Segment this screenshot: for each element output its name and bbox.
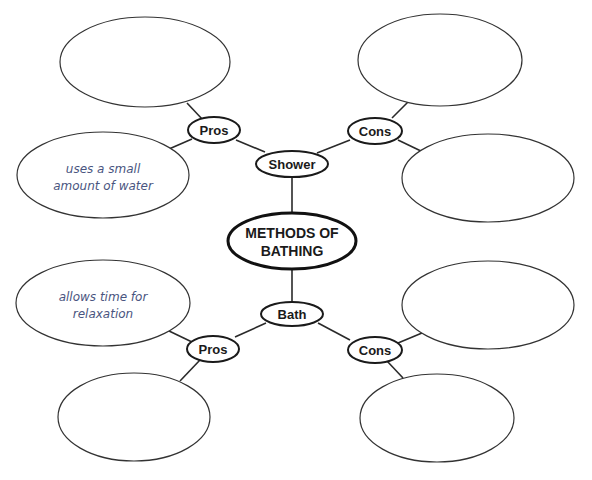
shower-cons-label: Cons	[359, 124, 392, 139]
central-title-line-1: METHODS OF	[245, 225, 339, 241]
shower-pros-note-1-line-2: amount of water	[53, 179, 154, 193]
bath-cons-label: Cons	[359, 343, 392, 358]
bath-cons-note-2[interactable]	[360, 374, 514, 462]
shower-cons-note-1[interactable]	[358, 14, 522, 106]
shower-pros-label: Pros	[200, 123, 229, 138]
bath-label: Bath	[278, 307, 307, 322]
central-topic-node	[228, 213, 356, 269]
bath-pros-note-1-line-1: allows time for	[59, 290, 149, 304]
central-title-line-2: BATHING	[261, 243, 324, 259]
bath-pros-note-2[interactable]	[58, 373, 210, 461]
bath-cons-note-1[interactable]	[402, 261, 574, 349]
bath-pros-note-1-line-2: relaxation	[73, 307, 133, 321]
shower-pros-note-1[interactable]	[60, 17, 230, 107]
bath-pros-label: Pros	[199, 342, 228, 357]
shower-label: Shower	[269, 157, 316, 172]
shower-cons-note-2[interactable]	[402, 134, 574, 222]
mind-map: Pros Cons Shower Bath Pros Cons METHODS …	[0, 0, 592, 480]
shower-pros-note-1-line-1: uses a small	[66, 162, 141, 176]
